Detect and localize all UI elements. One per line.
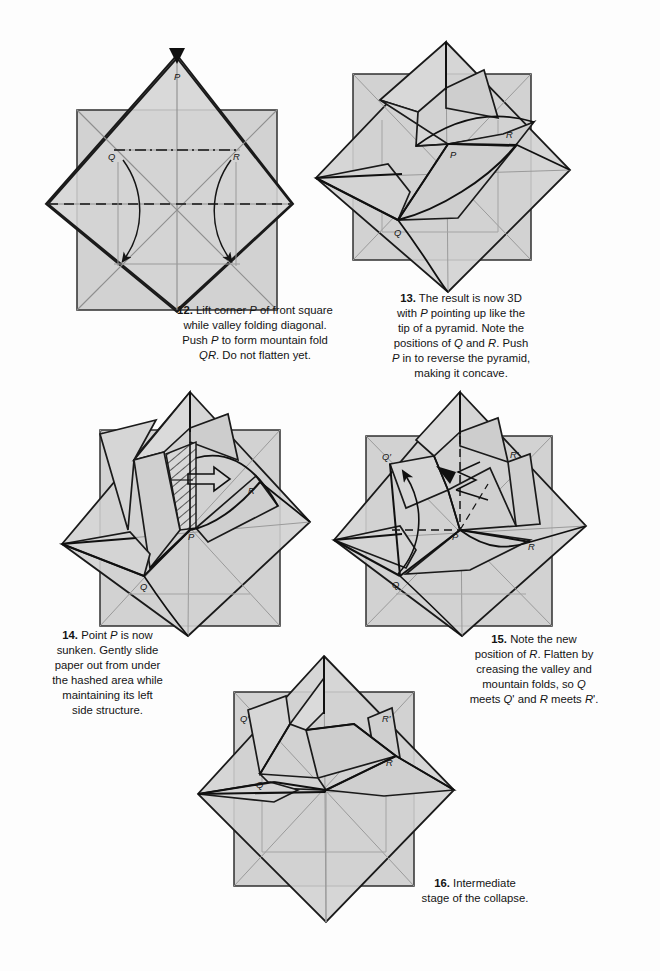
step-number-16: 16. <box>434 877 450 889</box>
label-P: P <box>174 71 181 82</box>
step-text-15-line-3: creasing the valley and <box>476 663 592 675</box>
figure-step-15: Q′ R′ P Q R <box>330 398 630 633</box>
label-Q-prime: Q′ <box>240 713 250 724</box>
step-text-13-line-4: positions of Q and R. Push <box>394 337 528 349</box>
label-R: R <box>233 151 240 162</box>
origami-instruction-page: P Q R 12. Lift corner P of front square … <box>0 0 660 971</box>
step-text-14-line-3: paper out from under <box>55 659 161 671</box>
step-text-15-line-1: Note the new <box>510 633 577 645</box>
label-R-prime: R′ <box>382 713 392 724</box>
step-text-15-line-5: meets Q' and R meets R'. <box>470 693 599 705</box>
step-text-12-line-2: while valley folding diagonal. <box>183 319 326 331</box>
step-number-12: 12. <box>177 304 193 316</box>
step-text-13-line-6: making it concave. <box>414 367 508 379</box>
caption-step-16: 16. Intermediate stage of the collapse. <box>385 876 565 906</box>
label-Q: Q <box>256 779 263 790</box>
diagram-14: P Q R <box>38 398 328 633</box>
caption-step-12: 12. Lift corner P of front square while … <box>150 303 360 363</box>
label-R: R <box>528 541 535 552</box>
label-P: P <box>188 531 195 542</box>
step-number-13: 13. <box>400 292 416 304</box>
step-text-12-line-1: Lift corner P of front square <box>196 304 333 316</box>
caption-step-13: 13. The result is now 3D with P pointing… <box>362 291 560 381</box>
step-text-14-line-4: the hashed area while <box>52 674 163 686</box>
diagram-12: P Q R <box>30 50 310 320</box>
label-Q: Q <box>108 151 115 162</box>
label-R-prime: R′ <box>510 449 520 460</box>
step-text-16-line-2: stage of the collapse. <box>422 892 529 904</box>
step-text-15-line-4: mountain folds, so Q <box>482 678 586 690</box>
label-Q-prime: Q′ <box>382 451 392 462</box>
step-number-15: 15. <box>491 633 507 645</box>
edge-pyramid-P-to-R <box>448 144 517 145</box>
step-text-14-line-2: sunken. Gently slide <box>57 644 159 656</box>
step-text-15-line-2: position of R. Flatten by <box>475 648 594 660</box>
label-Q: Q <box>140 581 147 592</box>
step-text-13-line-5: P in to reverse the pyramid, <box>392 352 530 364</box>
diagram-13: P Q R <box>298 60 598 300</box>
step-number-14: 14. <box>62 629 78 641</box>
step-text-12-line-4: QR. Do not flatten yet. <box>199 349 311 361</box>
figure-step-14: P Q R <box>38 398 328 633</box>
label-R: R <box>386 757 393 768</box>
caption-step-14: 14. Point P is now sunken. Gently slide … <box>20 628 195 718</box>
label-Q: Q <box>392 579 399 590</box>
label-P: P <box>450 149 457 160</box>
step-text-13-line-2: with P pointing up like the <box>397 307 525 319</box>
diagram-15: Q′ R′ P Q R <box>330 398 630 633</box>
label-R: R <box>506 129 513 140</box>
step-text-13-line-1: The result is now 3D <box>419 292 522 304</box>
step-text-16-line-1: Intermediate <box>453 877 516 889</box>
step-text-13-line-3: tip of a pyramid. Note the <box>398 322 524 334</box>
figure-step-12: P Q R <box>30 50 310 320</box>
label-Q: Q <box>394 227 401 238</box>
step-text-14-line-6: side structure. <box>72 704 143 716</box>
step-text-14-line-5: maintaining its left <box>62 689 152 701</box>
step-text-14-line-1: Point P is now <box>81 629 153 641</box>
label-P: P <box>452 531 459 542</box>
figure-step-13: P Q R <box>298 60 598 300</box>
label-R: R <box>248 485 255 496</box>
step-text-12-line-3: Push P to form mountain fold <box>182 334 328 346</box>
